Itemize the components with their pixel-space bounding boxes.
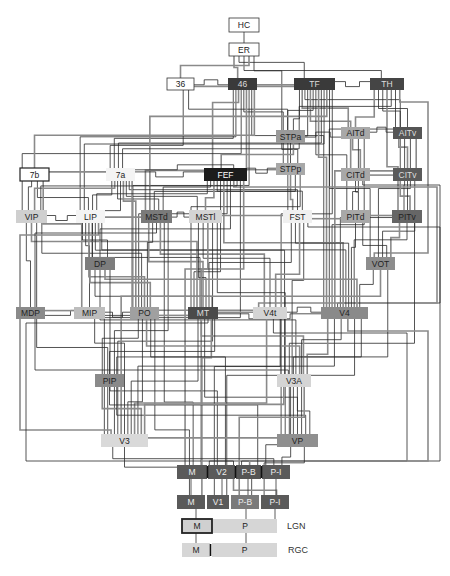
- node-po: PO: [130, 307, 159, 319]
- strip-segment-label: P-I: [271, 467, 282, 477]
- node-label: PITd: [347, 212, 365, 222]
- node-v4: V4: [321, 307, 368, 319]
- strip-side-label: RGC: [288, 545, 309, 555]
- node-label: VOT: [372, 259, 389, 269]
- connection-line-V3A-V2: [266, 387, 291, 465]
- node-citd: CITd: [341, 168, 370, 181]
- node-label: STPp: [280, 164, 302, 174]
- node-aitv: AITv: [393, 127, 422, 139]
- connection-line-TF-V4: [319, 90, 327, 307]
- connection-line-7a-PO: [123, 181, 135, 307]
- strip-segment-label: M: [192, 545, 199, 555]
- node-tf: TF: [294, 78, 335, 90]
- connection-line-LIP-V3: [20, 223, 111, 434]
- node-label: V4t: [264, 308, 277, 318]
- node-label: V3: [119, 436, 130, 446]
- connection-line-46-FEF: [213, 90, 239, 168]
- connection-line-TH-AITd: [356, 90, 375, 127]
- connection-line-46-MSTd: [145, 90, 246, 210]
- connection-line-MIP-PO: [105, 312, 130, 317]
- node-fef: FEF: [204, 168, 247, 181]
- connection-line-7b-LIP: [37, 181, 88, 210]
- connection-line-STPp-FEF: [247, 168, 276, 173]
- connection-line-7b-VIP: [28, 181, 31, 210]
- node-hc: HC: [229, 18, 259, 32]
- connection-line-ER-TH: [244, 56, 381, 78]
- strip-segment-label: M: [193, 521, 200, 531]
- node-label: 7a: [116, 170, 126, 180]
- connection-line-7a-LIP: [93, 181, 112, 210]
- connection-line-VOT-V4: [360, 270, 374, 307]
- connection-line-FST-MT: [209, 223, 291, 307]
- node-pitd: PITd: [341, 210, 370, 223]
- node-label: MSTd: [145, 212, 168, 222]
- node-vot: VOT: [366, 257, 395, 270]
- connection-line-36-7a: [110, 90, 183, 168]
- early-visual-strips: MV2P-BP-IMV1P-BP-IMPLGNMPRGC: [177, 465, 309, 557]
- node-label: CITv: [399, 170, 418, 180]
- node-label: MIP: [82, 308, 97, 318]
- connection-line-TF-TH: [335, 82, 370, 87]
- node-v4t: V4t: [253, 307, 287, 319]
- node-mdp: MDP: [16, 307, 45, 319]
- connection-line-MSTd-MSTl: [172, 212, 189, 217]
- connection-line-DP-MT: [95, 270, 212, 307]
- node-36: 36: [167, 78, 194, 90]
- node-pip: PIP: [95, 374, 124, 387]
- node-label: VIP: [25, 212, 39, 222]
- node-fst: FST: [283, 210, 312, 223]
- connection-line-FEF-PO: [139, 181, 227, 307]
- node-pitv: PITv: [392, 210, 422, 223]
- node-label: V4: [339, 308, 350, 318]
- connection-line-PITd-V4: [351, 223, 355, 307]
- connection-line-V4-V2: [250, 319, 428, 465]
- node-label: CITd: [346, 170, 365, 180]
- connection-line-MSTd-V2: [164, 223, 193, 465]
- node-v3a: V3A: [277, 374, 311, 387]
- connection-line-DP-V4: [105, 270, 357, 307]
- strip-segment-label: V1: [213, 497, 224, 507]
- strip-segment-label: P-B: [241, 467, 256, 477]
- node-label: PIP: [103, 376, 117, 386]
- node-label: DP: [94, 259, 106, 269]
- connection-line-STPp-FST: [291, 175, 293, 210]
- node-lip: LIP: [76, 210, 105, 223]
- connection-line-ER-STPa: [254, 56, 282, 130]
- node-citv: CITv: [393, 168, 422, 181]
- connection-line-AITd-CITd: [353, 139, 361, 168]
- node-label: MSTl: [196, 212, 216, 222]
- node-label: 46: [238, 79, 248, 89]
- node-label: PITv: [398, 212, 416, 222]
- node-label: FEF: [217, 170, 233, 180]
- node-mip: MIP: [74, 307, 105, 319]
- strip-segment-label: M: [187, 497, 194, 507]
- strip-segment-label: P-B: [238, 497, 253, 507]
- node-7a: 7a: [106, 168, 135, 181]
- strip-v1: MV1P-BP-I: [177, 495, 289, 509]
- node-label: FST: [289, 212, 305, 222]
- strip-segment-label: P-I: [270, 497, 281, 507]
- connection-line-ER-46: [234, 56, 238, 78]
- connection-line-PITv-VP: [289, 223, 414, 434]
- connection-line-MSTd-MT: [149, 223, 203, 307]
- node-er: ER: [229, 43, 259, 56]
- node-th: TH: [370, 78, 404, 90]
- node-label: PO: [138, 308, 151, 318]
- connection-line-7b-MIP: [43, 181, 82, 307]
- connection-line-AITd-AITv: [370, 127, 393, 132]
- node-label: AITv: [399, 128, 417, 138]
- node-vp: VP: [277, 434, 318, 447]
- node-label: HC: [238, 20, 250, 30]
- node-label: VP: [292, 436, 304, 446]
- connection-line-FEF-V4: [224, 181, 343, 307]
- node-label: V3A: [286, 376, 302, 386]
- connection-line-FST-V4t: [276, 223, 300, 307]
- node-label: TF: [309, 79, 319, 89]
- node-label: ER: [238, 45, 250, 55]
- node-stpp: STPp: [276, 163, 305, 175]
- connection-line-PIP-V2: [110, 387, 258, 465]
- connection-line-VIP-LIP: [47, 216, 76, 221]
- node-dp: DP: [85, 257, 115, 270]
- strip-segment-label: P: [242, 521, 248, 531]
- node-v3: V3: [101, 434, 148, 447]
